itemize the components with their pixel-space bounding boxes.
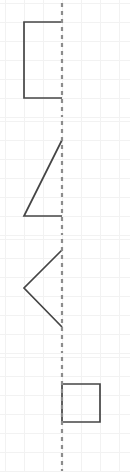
shape-layer-2 xyxy=(0,236,130,354)
shape-panel-0 xyxy=(0,0,130,118)
reflection-worksheet xyxy=(0,0,130,472)
shape-layer-0 xyxy=(0,0,130,118)
figure-1 xyxy=(24,140,62,216)
figure-2 xyxy=(24,250,62,327)
shape-layer-1 xyxy=(0,118,130,236)
shape-layer-3 xyxy=(0,354,130,472)
shape-panel-1 xyxy=(0,118,130,236)
shape-panel-2 xyxy=(0,236,130,354)
figure-0 xyxy=(24,22,62,98)
shape-panel-3 xyxy=(0,354,130,472)
figure-3 xyxy=(62,384,100,422)
